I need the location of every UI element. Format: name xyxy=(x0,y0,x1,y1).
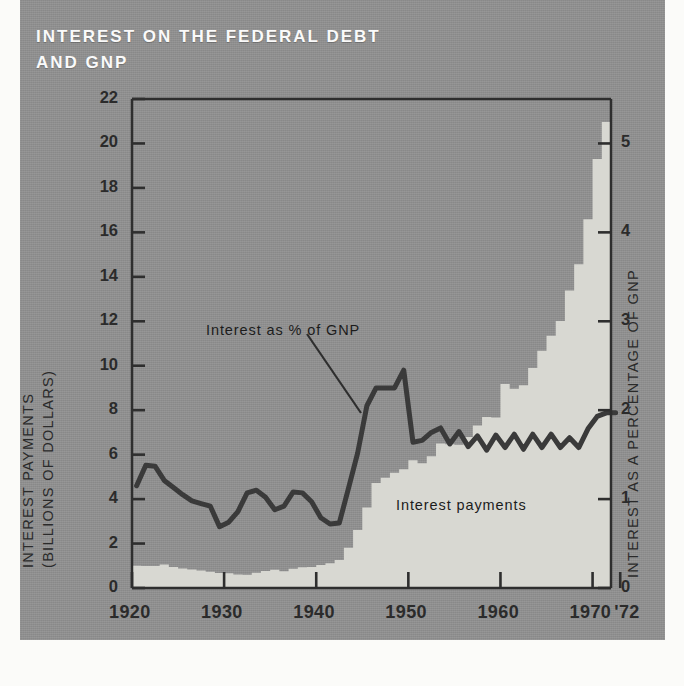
x-tick-label: 1950 xyxy=(385,602,427,623)
right-tick-label: 5 xyxy=(621,132,647,151)
left-tick-label: 6 xyxy=(78,444,118,463)
annotation-interest-pct-gnp: Interest as % of GNP xyxy=(206,322,360,338)
interest-payments-area xyxy=(132,111,611,588)
annotation-leader-line xyxy=(307,334,361,413)
left-tick-label: 14 xyxy=(78,266,118,285)
left-tick-label: 12 xyxy=(78,310,118,329)
left-tick-label: 4 xyxy=(78,488,118,507)
right-tick-label: 4 xyxy=(621,221,647,240)
left-tick-label: 2 xyxy=(78,533,118,552)
right-tick-label: 0 xyxy=(621,577,647,596)
x-tick-label: 1920 xyxy=(109,602,151,623)
x-tick-label: 1940 xyxy=(293,602,335,623)
x-tick-label: 1970 xyxy=(570,602,612,623)
left-tick-label: 20 xyxy=(78,132,118,151)
area-path xyxy=(132,111,611,588)
left-tick-label: 16 xyxy=(78,221,118,240)
right-tick-label: 1 xyxy=(621,488,647,507)
right-tick-label: 2 xyxy=(621,399,647,418)
left-tick-label: 18 xyxy=(78,177,118,196)
left-tick-label: 22 xyxy=(78,88,118,107)
left-tick-label: 0 xyxy=(78,577,118,596)
leader-line xyxy=(307,334,361,413)
chart-figure: INTEREST ON THE FEDERAL DEBT AND GNP INT… xyxy=(0,0,684,686)
left-tick-label: 8 xyxy=(78,399,118,418)
annotation-interest-payments: Interest payments xyxy=(396,497,527,513)
left-tick-label: 10 xyxy=(78,355,118,374)
x-tick-label: 1960 xyxy=(477,602,519,623)
right-tick-label: 3 xyxy=(621,310,647,329)
x-tick-label: '72 xyxy=(614,602,640,623)
x-tick-label: 1930 xyxy=(201,602,243,623)
